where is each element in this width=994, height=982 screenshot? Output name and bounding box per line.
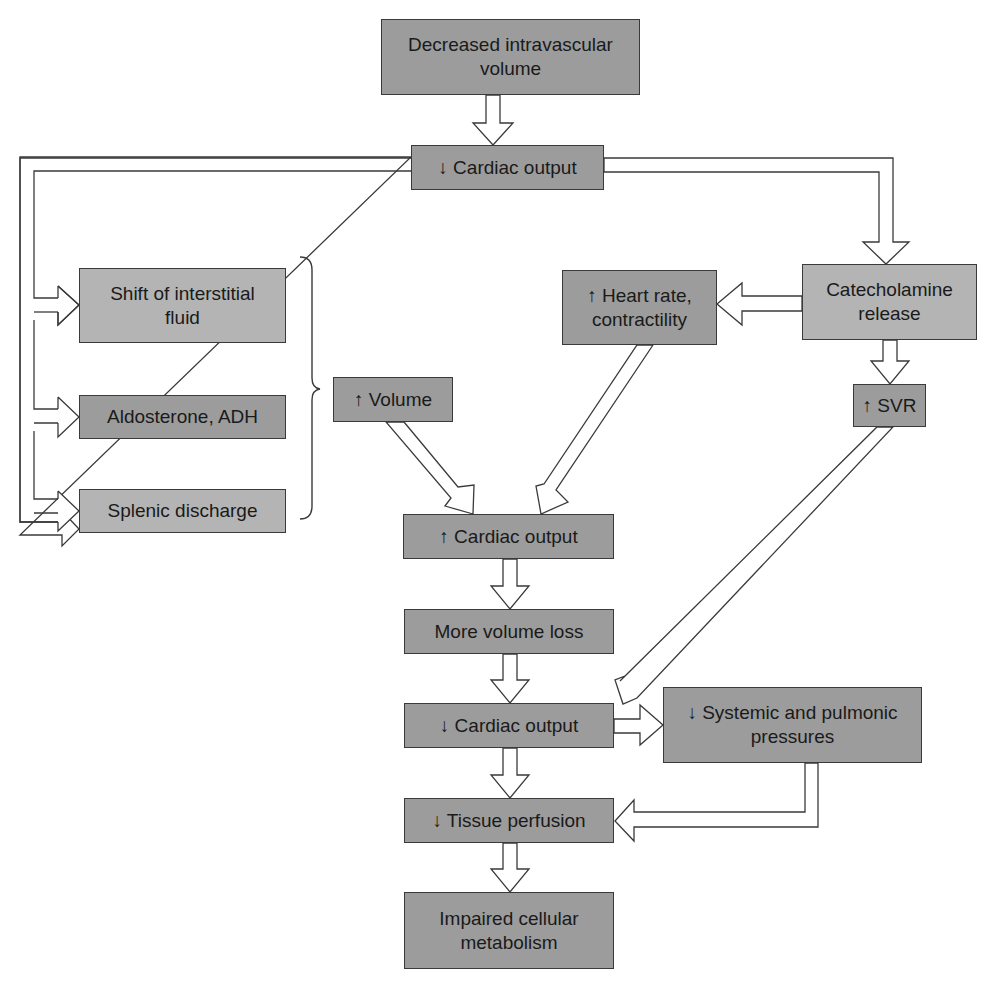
arrow-diagonal-icon — [386, 422, 474, 514]
arrow-down-icon — [473, 95, 513, 145]
node-splenic-discharge: Splenic discharge — [79, 489, 286, 533]
arrow-down-icon — [871, 340, 909, 384]
node-impaired-metabolism: Impaired cellular metabolism — [404, 892, 614, 969]
brace-icon — [300, 257, 320, 519]
arrow-down-icon — [491, 748, 529, 798]
node-label: ↓ Cardiac output — [440, 714, 578, 738]
arrow-bus-outer — [20, 157, 411, 546]
node-label: Splenic discharge — [108, 499, 258, 523]
node-cardiac-output-down-2: ↓ Cardiac output — [404, 703, 614, 748]
node-label: Impaired cellular metabolism — [439, 907, 578, 955]
arrow-down-icon — [491, 843, 529, 892]
node-label: ↑ Cardiac output — [439, 525, 577, 549]
node-label: ↑ Heart rate, contractility — [587, 284, 692, 332]
node-label: ↓ Tissue perfusion — [432, 809, 585, 833]
node-label: ↑ Volume — [354, 388, 432, 412]
arrow-right-icon — [614, 705, 663, 745]
node-heart-rate-up: ↑ Heart rate, contractility — [562, 270, 717, 345]
arrow-diagonal-icon — [536, 345, 653, 514]
node-label: ↓ Cardiac output — [438, 156, 576, 180]
node-label: ↑ SVR — [863, 394, 917, 418]
node-volume-up: ↑ Volume — [333, 377, 453, 422]
node-aldosterone-adh: Aldosterone, ADH — [79, 395, 286, 439]
node-label: ↓ Systemic and pulmonic pressures — [687, 701, 897, 749]
node-label: Catecholamine release — [826, 278, 953, 326]
node-cardiac-output-down-1: ↓ Cardiac output — [411, 145, 604, 190]
node-shift-interstitial-fluid: Shift of interstitial fluid — [79, 268, 286, 343]
node-decreased-volume: Decreased intravascular volume — [381, 19, 640, 95]
arrow-diagonal-icon — [615, 427, 893, 704]
arrow-down-icon — [491, 654, 529, 703]
arrow-down-icon — [491, 559, 529, 609]
node-svr-up: ↑ SVR — [853, 384, 926, 427]
node-tissue-perfusion-down: ↓ Tissue perfusion — [404, 798, 614, 843]
node-more-volume-loss: More volume loss — [404, 609, 614, 654]
arrow-left-icon — [717, 283, 802, 325]
node-label: Shift of interstitial fluid — [110, 282, 255, 330]
node-catecholamine-release: Catecholamine release — [802, 264, 977, 340]
node-label: Aldosterone, ADH — [107, 405, 258, 429]
node-cardiac-output-up: ↑ Cardiac output — [403, 514, 614, 559]
node-label: More volume loss — [435, 620, 584, 644]
arrow-elbow-icon — [604, 158, 909, 264]
node-pressures-down: ↓ Systemic and pulmonic pressures — [663, 687, 922, 763]
node-label: Decreased intravascular volume — [408, 33, 613, 81]
arrow-left-icon — [615, 763, 818, 841]
